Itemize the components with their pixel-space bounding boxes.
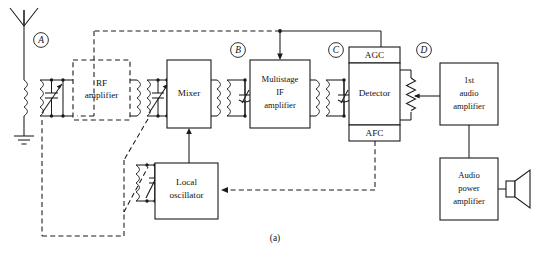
block-local-oscillator[interactable]: Local oscillator [155,163,218,219]
audio-power-line3: amplifier [453,196,485,206]
lo-to-mixer-arrow [186,128,192,134]
if-amplifier-line1: Multistage [262,74,299,84]
mixer-label: Mixer [178,88,200,98]
block-afc[interactable]: AFC [349,125,400,141]
audio-power-line1: Audio [458,170,479,180]
block-mixer[interactable]: Mixer [167,60,211,128]
mixer-output-transformer [211,80,231,116]
rf-output-transformer [130,80,151,116]
detector-label: Detector [359,88,391,98]
afc-label: AFC [366,128,384,138]
rf-amplifier-line2: amplifier [85,90,119,100]
ganged-tuning-capacitor-linkage [42,119,148,236]
test-point-c: C [329,43,344,58]
local-oscillator-line2: oscillator [169,190,203,200]
ground-icon [14,136,34,144]
block-audio-power-amplifier[interactable]: Audio power amplifier [440,158,498,220]
volume-control-potentiometer[interactable] [400,70,432,120]
test-point-b-label: B [235,45,241,55]
block-if-amplifier[interactable]: Multistage IF amplifier [250,60,310,128]
if-amplifier-line3: amplifier [264,100,296,110]
antenna-coil-primary [24,80,28,116]
block-agc[interactable]: AGC [349,47,400,63]
block-first-audio-amplifier[interactable]: 1st audio amplifier [440,63,498,125]
test-point-b: B [231,43,246,58]
rf-input-tank [40,78,65,117]
test-point-d: D [417,43,432,58]
test-point-a: A [34,33,49,48]
test-point-a-label: A [37,35,44,45]
block-rf-amplifier[interactable]: RF amplifier [73,60,130,120]
audio-power-line2: power [458,183,480,193]
figure-canvas: A [0,0,541,255]
rf-amplifier-line1: RF [96,78,107,88]
superheterodyne-receiver-diagram: A [0,0,541,255]
figure-caption: (a) [270,233,280,244]
first-audio-line3: amplifier [453,101,485,111]
local-oscillator-line1: Local [176,177,197,187]
first-audio-line1: 1st [464,75,475,85]
if-output-transformer [310,80,330,116]
afc-control-path [221,141,375,193]
if-amplifier-line2: IF [276,87,284,97]
block-detector[interactable]: Detector [349,63,400,125]
agc-label: AGC [365,50,384,60]
test-point-d-label: D [420,45,428,55]
first-audio-line2: audio [459,88,478,98]
speaker-icon [498,170,530,208]
test-point-c-label: C [333,45,340,55]
